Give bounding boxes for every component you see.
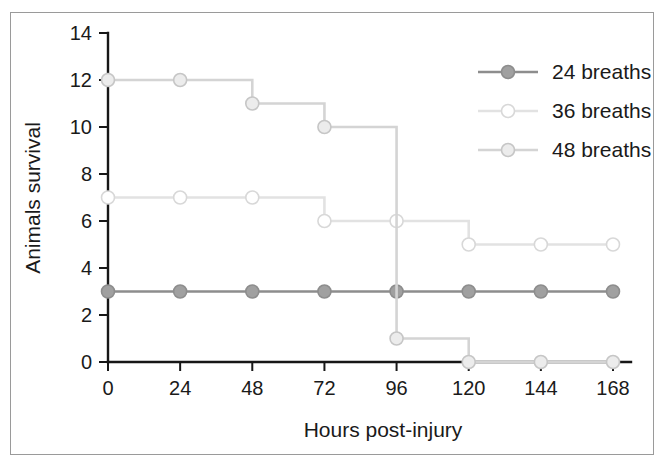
- x-tick-label: 48: [241, 377, 263, 399]
- legend-marker-swatch: [502, 66, 515, 79]
- x-tick-label: 72: [313, 377, 335, 399]
- legend-marker-swatch: [502, 105, 515, 118]
- legend-label: 24 breaths: [552, 60, 651, 83]
- data-point-marker: [607, 356, 620, 369]
- x-tick-label: 96: [385, 377, 407, 399]
- y-axis-title: Animals survival: [21, 122, 44, 274]
- data-point-marker: [102, 74, 115, 87]
- data-point-marker: [390, 332, 403, 345]
- series-2: [102, 191, 620, 251]
- data-point-marker: [318, 121, 331, 134]
- y-tick-label: 6: [81, 210, 92, 232]
- x-axis-title: Hours post-injury: [304, 418, 463, 441]
- data-point-marker: [607, 238, 620, 251]
- x-tick-label: 120: [452, 377, 485, 399]
- data-point-marker: [318, 215, 331, 228]
- y-axis-tick-labels: 02468101214: [70, 22, 92, 373]
- y-tick-label: 4: [81, 257, 92, 279]
- series-line: [108, 198, 613, 245]
- data-point-marker: [534, 285, 547, 298]
- data-point-marker: [462, 356, 475, 369]
- legend-label: 36 breaths: [552, 99, 651, 122]
- y-tick-label: 8: [81, 163, 92, 185]
- series-1: [102, 285, 620, 298]
- x-axis-tick-labels: 024487296120144168: [102, 377, 629, 399]
- data-point-marker: [246, 97, 259, 110]
- data-point-marker: [102, 285, 115, 298]
- data-point-marker: [462, 285, 475, 298]
- x-tick-label: 0: [102, 377, 113, 399]
- x-tick-label: 144: [524, 377, 557, 399]
- series-layer: [102, 74, 620, 369]
- data-point-marker: [174, 285, 187, 298]
- chart-legend: 24 breaths36 breaths48 breaths: [478, 60, 651, 161]
- figure-root: 02468101214 024487296120144168 Hours pos…: [0, 0, 664, 463]
- y-tick-label: 10: [70, 116, 92, 138]
- data-point-marker: [534, 356, 547, 369]
- data-point-marker: [534, 238, 547, 251]
- y-tick-label: 14: [70, 22, 92, 44]
- y-tick-label: 2: [81, 304, 92, 326]
- x-tick-label: 24: [169, 377, 191, 399]
- y-tick-label: 12: [70, 69, 92, 91]
- x-tick-label: 168: [596, 377, 629, 399]
- data-point-marker: [174, 74, 187, 87]
- data-point-marker: [462, 238, 475, 251]
- data-point-marker: [607, 285, 620, 298]
- legend-label: 48 breaths: [552, 138, 651, 161]
- survival-chart: 02468101214 024487296120144168 Hours pos…: [0, 0, 664, 463]
- data-point-marker: [174, 191, 187, 204]
- data-point-marker: [318, 285, 331, 298]
- data-point-marker: [246, 285, 259, 298]
- y-tick-label: 0: [81, 351, 92, 373]
- legend-marker-swatch: [502, 144, 515, 157]
- data-point-marker: [102, 191, 115, 204]
- data-point-marker: [246, 191, 259, 204]
